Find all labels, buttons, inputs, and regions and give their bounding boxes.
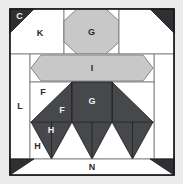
piece-rectangle-top-right — [119, 9, 174, 54]
hst-group: H H — [31, 122, 153, 159]
piece-side-strip-right — [154, 54, 174, 159]
quilt-block-svg: C K G L I — [0, 0, 183, 184]
piece-elongated-hexagon-i: I — [31, 55, 153, 81]
quilt-block-diagram: C K G L I — [0, 0, 183, 184]
piece-side-strip-l: L — [10, 54, 30, 159]
piece-rectangle-k: C K — [10, 9, 64, 54]
piece-octagon-g-top: G — [64, 9, 119, 54]
piece-center-square-g: G — [72, 82, 112, 122]
piece-bottom-strip-n: N — [10, 159, 174, 175]
